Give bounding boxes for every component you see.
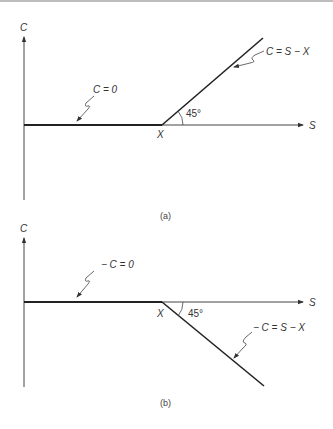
angle-arc [178, 111, 183, 125]
x-axis-label: S [309, 297, 316, 308]
y-axis-label: C [20, 22, 28, 33]
flat-label: C = 0 [93, 84, 118, 95]
panel-b: C S X 45° − C = 0 − C = S − X (b) [20, 223, 316, 408]
angle-label: 45° [188, 308, 203, 319]
angle-label: 45° [186, 108, 201, 119]
payoff-diagram: C S X 45° C = 0 C = S − X (a) C S X 45° … [0, 0, 333, 429]
slope-payoff-line [162, 302, 264, 386]
slope-label: − C = S − X [253, 322, 305, 333]
flat-label: − C = 0 [101, 259, 134, 270]
strike-label: X [156, 308, 164, 319]
panel-caption: (a) [160, 211, 171, 221]
panel-a: C S X 45° C = 0 C = S − X (a) [20, 22, 316, 221]
squiggle-pointer-icon [77, 96, 94, 121]
panel-caption: (b) [160, 398, 171, 408]
y-axis-label: C [20, 223, 28, 234]
angle-arc [178, 302, 183, 316]
x-axis-label: S [309, 120, 316, 131]
squiggle-pointer-icon [77, 271, 94, 297]
strike-label: X [156, 129, 164, 140]
slope-label: C = S − X [266, 46, 310, 57]
slope-payoff-line [162, 38, 263, 125]
squiggle-pointer-icon [234, 332, 252, 358]
